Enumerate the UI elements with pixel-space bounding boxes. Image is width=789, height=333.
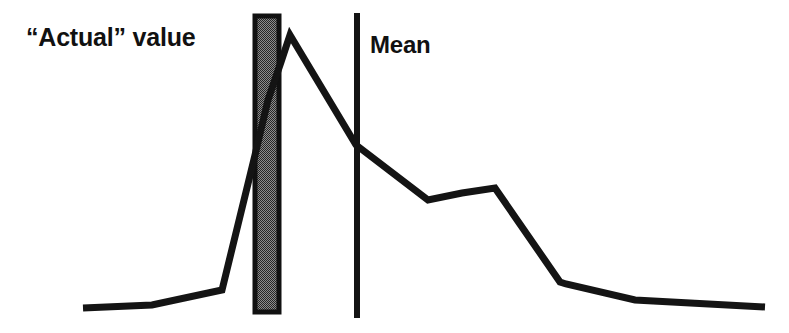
- distribution-figure: “Actual” value Mean: [0, 0, 789, 333]
- actual-value-label: “Actual” value: [26, 25, 195, 50]
- mean-label: Mean: [370, 33, 431, 57]
- actual-value-band-fill: [255, 16, 279, 312]
- actual-value-band: [255, 16, 279, 312]
